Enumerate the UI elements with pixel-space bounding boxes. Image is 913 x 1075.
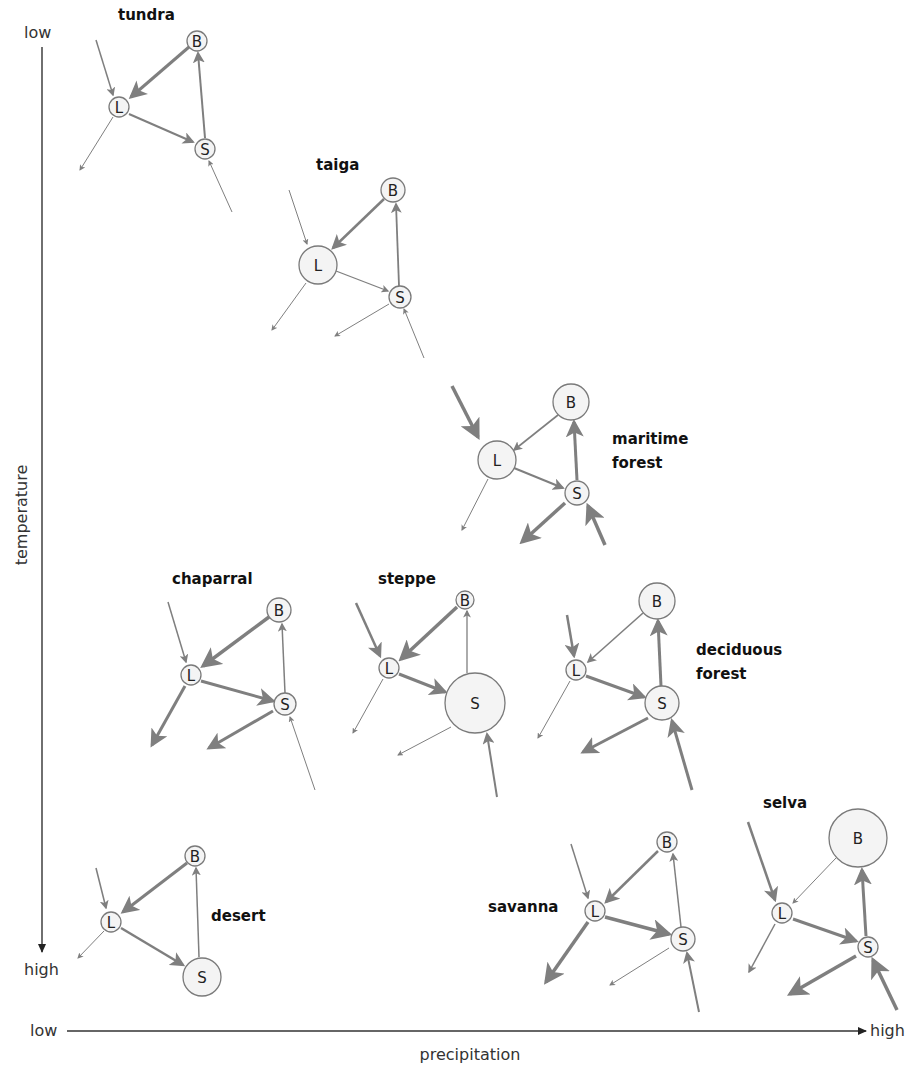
node-label: S [470,695,480,713]
flow-arrow-icon [487,734,497,797]
node-label: S [395,289,405,307]
flow-arrow-icon [123,863,187,912]
node-l-savanna: L [585,901,605,921]
flow-arrow-icon [588,506,605,545]
flow-arrow-icon [404,309,424,358]
x-axis-low-label: low [30,1021,57,1040]
node-b-tundra: B [187,31,207,51]
node-l-deciduous-forest: L [566,660,586,680]
node-label: L [107,914,116,932]
flow-arrow-icon [333,199,384,248]
flow-arrow-icon [672,721,692,790]
biome-maritime-forest: LBSmaritimeforest [452,384,688,545]
node-s-deciduous-forest: S [645,686,679,720]
y-axis-high-label: high [24,960,59,979]
flow-arrow-icon [452,386,478,437]
node-s-maritime-forest: S [565,481,589,505]
flow-arrow-icon [168,602,186,662]
biome-label: maritime [612,430,688,448]
node-label: B [190,848,200,866]
flow-arrow-icon [131,47,189,97]
node-b-desert: B [185,846,205,866]
flow-arrow-icon [586,676,644,697]
flow-arrow-icon [399,674,445,692]
flow-arrow-icon [129,114,193,142]
node-label: L [591,903,600,921]
flow-arrow-icon [673,854,681,927]
biome-label: desert [211,907,266,925]
flow-arrow-icon [272,283,306,330]
node-label: S [280,696,290,714]
flow-arrow-icon [398,727,451,755]
node-s-desert: S [183,958,221,996]
node-b-taiga: B [381,178,405,202]
flow-arrow-icon [522,503,565,542]
node-l-steppe: L [379,658,399,678]
node-b-selva: B [829,809,887,867]
node-label: S [678,931,688,949]
node-label: B [662,834,672,852]
flow-arrow-icon [793,919,856,941]
flow-arrow-icon [198,53,205,138]
flow-arrow-icon [514,468,563,488]
node-label: L [493,452,502,470]
x-axis-high-label: high [870,1021,905,1040]
flow-arrow-icon [567,615,574,656]
node-l-tundra: L [109,97,129,117]
flow-arrow-icon [96,40,113,95]
biome-label: forest [612,454,663,472]
flow-arrow-icon [606,851,658,902]
flow-arrow-icon [748,822,775,900]
flow-arrow-icon [201,681,273,701]
node-label: B [460,592,470,610]
flow-arrow-icon [209,711,273,748]
flow-arrow-icon [336,271,388,291]
flow-arrow-icon [873,960,897,1010]
flow-arrow-icon [80,117,113,170]
flow-arrow-icon [605,917,669,934]
node-s-savanna: S [671,927,695,951]
flow-arrow-icon [571,844,588,898]
node-label: B [566,394,576,412]
flow-arrow-icon [538,681,570,738]
flow-arrow-icon [356,603,380,656]
node-l-desert: L [101,912,121,932]
biome-steppe: LBSsteppe [353,570,505,797]
node-label: L [385,660,394,678]
node-s-steppe: S [445,673,505,733]
flow-arrow-icon [546,922,588,982]
node-label: B [274,602,284,620]
node-label: L [314,257,323,275]
flow-arrow-icon [282,624,285,693]
flow-arrow-icon [588,613,643,662]
biome-deciduous-forest: LBSdeciduousforest [538,583,782,790]
node-s-selva: S [858,937,878,957]
biome-label: tundra [118,6,175,24]
flow-arrow-icon [862,870,866,936]
biome-chaparral: LBSchaparral [152,570,315,790]
flow-arrow-icon [196,868,199,957]
flow-arrow-icon [790,956,856,994]
biome-selva: LBSselva [748,794,897,1010]
node-l-selva: L [772,903,792,923]
biome-label: taiga [316,156,359,174]
biome-label: selva [763,794,807,812]
biome-label: steppe [378,570,436,588]
biome-nutrient-cycle-diagram: low high temperature low high precipitat… [0,0,913,1075]
flow-arrow-icon [610,948,669,985]
flow-arrow-icon [78,931,104,958]
flow-arrow-icon [209,161,232,212]
node-b-chaparral: B [267,598,291,622]
x-axis-title: precipitation [420,1045,521,1064]
node-label: B [388,182,398,200]
node-label: L [778,905,787,923]
node-label: S [657,695,667,713]
y-axis-low-label: low [24,23,51,42]
flow-arrow-icon [290,717,315,790]
flow-arrow-icon [121,928,183,965]
node-b-steppe: B [456,591,474,610]
node-b-deciduous-forest: B [639,583,675,619]
node-label: B [853,830,863,848]
biome-networks: LBStundraLBStaigaLBSmaritimeforestLBScha… [78,6,897,1012]
node-label: L [187,667,196,685]
